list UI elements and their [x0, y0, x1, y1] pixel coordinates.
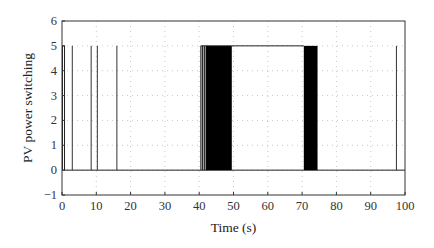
x-tick-label: 50 [227, 199, 240, 213]
x-tick-label: 70 [296, 199, 309, 213]
x-tick-label: 30 [159, 199, 172, 213]
y-tick-label: 4 [51, 64, 58, 78]
dense-switching-block [304, 46, 318, 170]
x-tick-label: 0 [59, 199, 65, 213]
chart: 0102030405060708090100 −10123456 Time (s… [0, 0, 434, 248]
x-tick-label: 40 [193, 199, 206, 213]
x-tick-label: 20 [124, 199, 137, 213]
y-tick-label: 3 [51, 89, 57, 103]
y-tick-label: 1 [51, 138, 57, 152]
y-tick-label: −1 [44, 188, 57, 202]
x-tick-label: 60 [262, 199, 275, 213]
x-axis-title: Time (s) [211, 220, 257, 235]
x-tick-label: 10 [90, 199, 103, 213]
x-tick-label: 100 [396, 199, 415, 213]
y-tick-label: 6 [51, 14, 57, 28]
initial-pulse [63, 46, 65, 170]
x-tick-label: 80 [330, 199, 343, 213]
x-tick-label: 90 [364, 199, 377, 213]
dense-switching-block [206, 46, 232, 170]
y-axis-title: PV power switching [20, 53, 35, 163]
plot-frame [62, 21, 405, 195]
grid-lines [62, 21, 405, 195]
y-tick-label: 5 [51, 39, 57, 53]
y-tick-label: 2 [51, 113, 57, 127]
y-tick-label: 0 [51, 163, 57, 177]
